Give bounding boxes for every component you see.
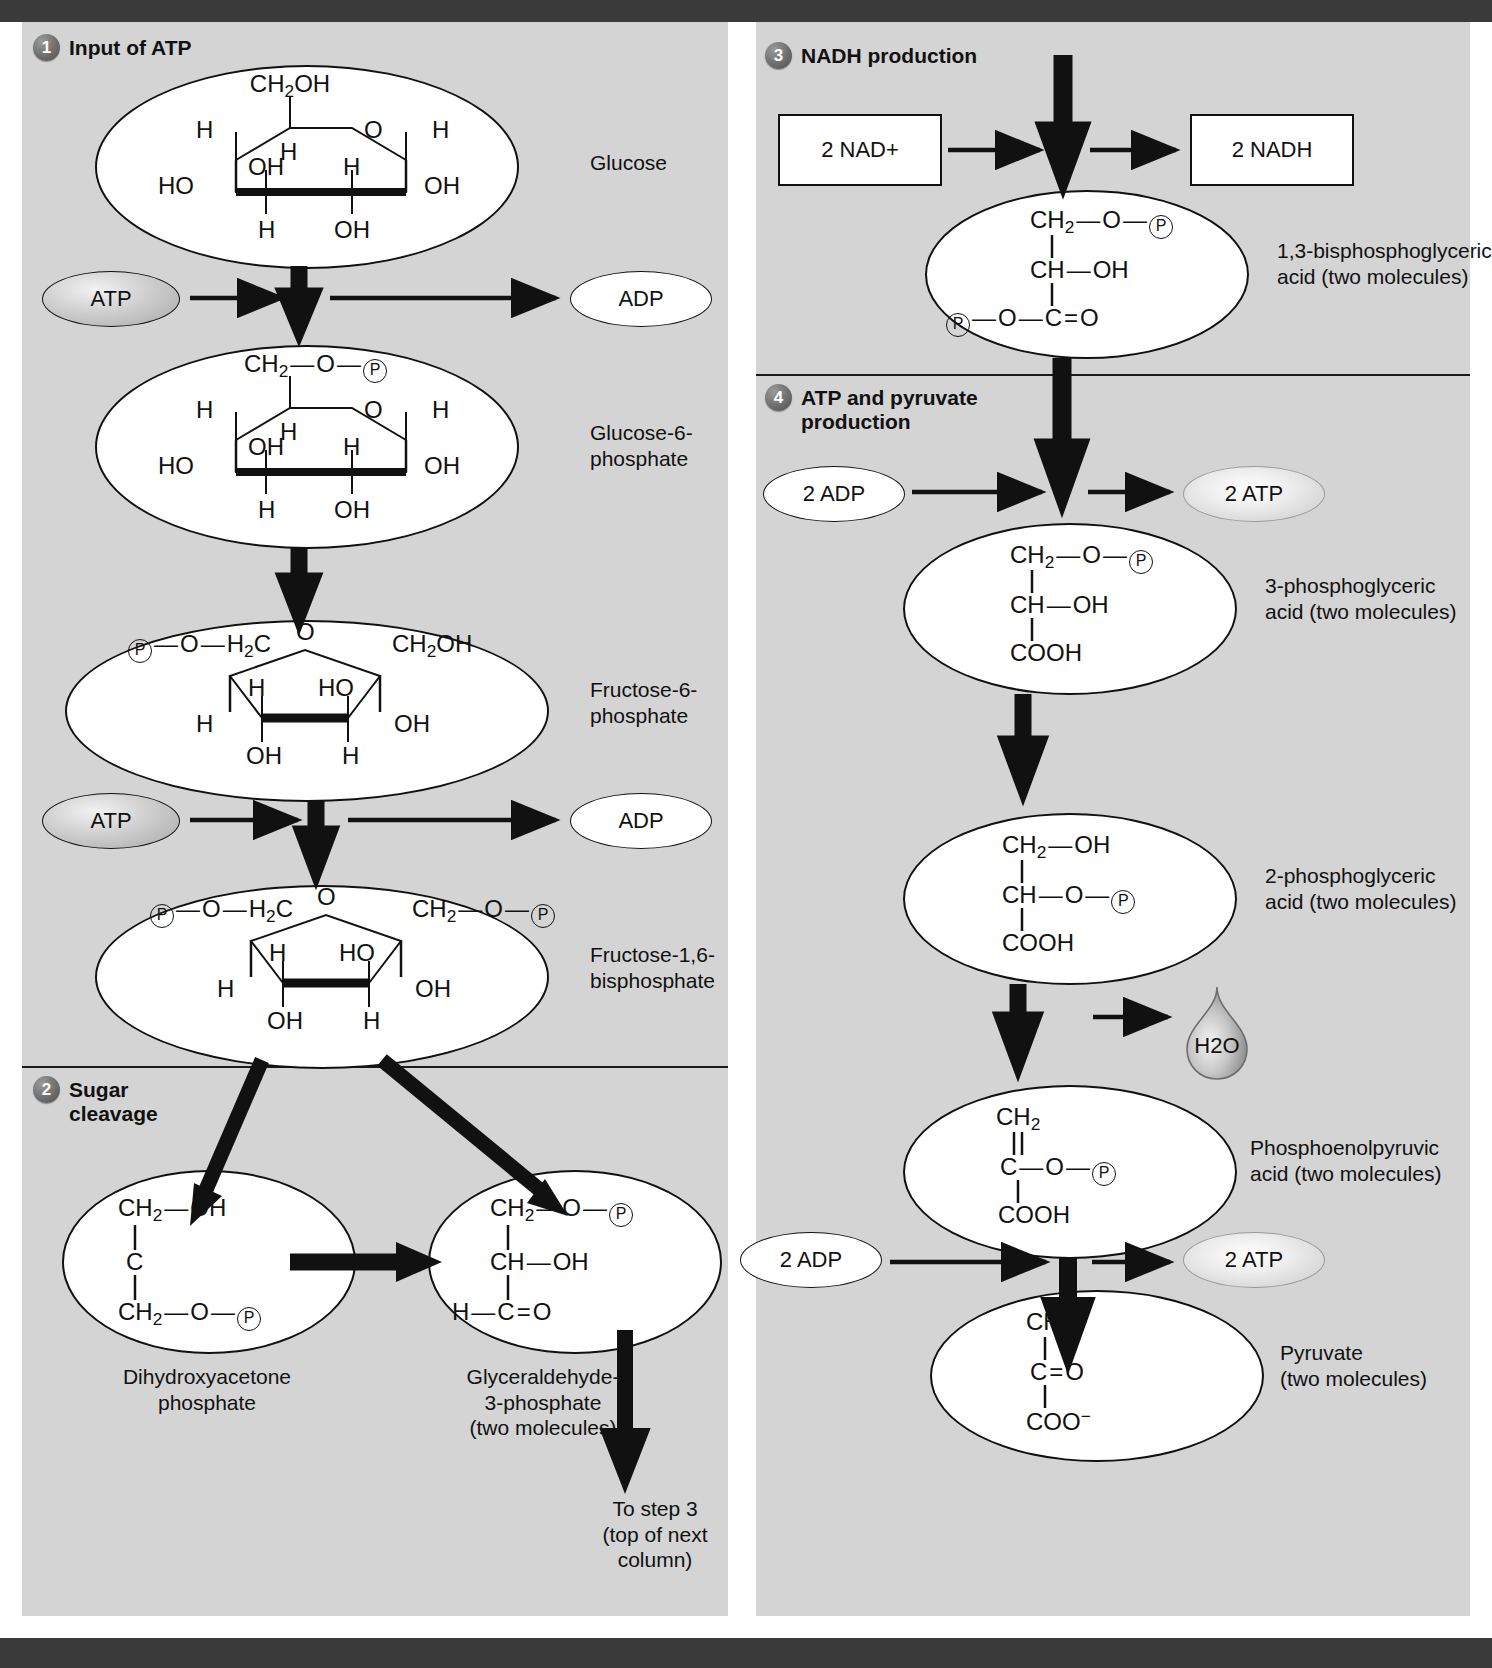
formula-glucose-h-right: H xyxy=(432,118,449,142)
adp-label: ADP xyxy=(618,808,663,834)
label-pyruvate: Pyruvate (two molecules) xyxy=(1280,1340,1427,1391)
atp-pill-2x-2: 2 ATP xyxy=(1183,1232,1325,1288)
formula-3pg-line2: CH — OH xyxy=(1010,593,1109,617)
formula-f6p-h-bottom: H xyxy=(342,744,359,768)
formula-g6p-h-c2: H xyxy=(343,435,360,459)
formula-pep-line2: C — O — P xyxy=(1000,1155,1116,1186)
adp-label: ADP xyxy=(618,286,663,312)
formula-3pg-line1: CH2 — O — P xyxy=(1010,543,1153,574)
figure-canvas: 1 Input of ATP 2 Sugar cleavage 3 NADH p… xyxy=(0,0,1492,1668)
formula-fbp-right-arm: CH2 — O — P xyxy=(412,897,555,928)
divider-step4 xyxy=(756,374,1470,376)
step-header-1: 1 Input of ATP xyxy=(33,34,191,61)
formula-glucose-h-c2: H xyxy=(343,155,360,179)
label-3-phosphoglyceric-acid: 3-phosphoglyceric acid (two molecules) xyxy=(1265,573,1456,624)
formula-2pg-line2: CH — O — P xyxy=(1002,883,1135,914)
formula-pep-line1: CH2 xyxy=(996,1105,1040,1133)
step-header-3: 3 NADH production xyxy=(765,42,977,69)
label-glyceraldehyde-3-phosphate: Glyceraldehyde- 3-phosphate (two molecul… xyxy=(398,1364,688,1441)
formula-glucose-oh-right: OH xyxy=(424,174,460,198)
formula-fbp-ho-inner: HO xyxy=(339,941,375,965)
formula-f6p-oh-bottom: OH xyxy=(246,744,282,768)
nad-plus-box: 2 NAD+ xyxy=(778,114,942,186)
formula-f6p-oh-right: OH xyxy=(394,712,430,736)
formula-bpg-line3: P — O — C = O xyxy=(946,306,1099,337)
formula-f6p-ho-inner: HO xyxy=(318,676,354,700)
label-1-3-bisphosphoglyceric-acid: 1,3-bisphosphoglyceric acid (two molecul… xyxy=(1277,238,1492,289)
formula-3pg-line3: COOH xyxy=(1010,641,1082,665)
atp-label: 2 ATP xyxy=(1225,1247,1283,1273)
adp-label: 2 ADP xyxy=(780,1247,842,1273)
formula-glucose-ho: HO xyxy=(158,174,194,198)
label-glucose-6-phosphate: Glucose-6- phosphate xyxy=(590,420,693,471)
adp-pill-2x-2: 2 ADP xyxy=(740,1232,882,1288)
step-header-2: 2 Sugar cleavage xyxy=(33,1076,158,1125)
formula-fbp-left-arm: P — O — H2C xyxy=(150,897,293,928)
atp-label: ATP xyxy=(90,808,131,834)
formula-glucose-h-bottom: H xyxy=(258,218,275,242)
formula-2pg-line3: COOH xyxy=(1002,931,1074,955)
label-dihydroxyacetone-phosphate: Dihydroxyacetone phosphate xyxy=(62,1364,352,1415)
formula-f6p-h-inner: H xyxy=(248,676,265,700)
water-label: H2O xyxy=(1175,1033,1259,1059)
formula-pep-line3: COOH xyxy=(998,1203,1070,1227)
formula-g6p-c6: CH2 — O — P xyxy=(244,352,387,383)
formula-dhap-line3: CH2 — O — P xyxy=(118,1300,261,1331)
step-number-badge: 2 xyxy=(33,1076,60,1103)
label-2-phosphoglyceric-acid: 2-phosphoglyceric acid (two molecules) xyxy=(1265,863,1456,914)
water-droplet: H2O xyxy=(1175,985,1259,1081)
formula-g6p-oh-right: OH xyxy=(424,454,460,478)
formula-fbp-h-inner: H xyxy=(269,941,286,965)
adp-pill-1: ADP xyxy=(570,271,712,327)
formula-glucose-oh-c2: OH xyxy=(248,155,284,179)
formula-g3p-line3: H — C = O xyxy=(452,1300,551,1324)
label-fructose-1-6-bisphosphate: Fructose-1,6- bisphosphate xyxy=(590,942,715,993)
molecule-ellipse-pyruvate xyxy=(930,1290,1264,1462)
formula-dhap-line1: CH2 — OH xyxy=(118,1196,226,1224)
formula-f6p-ring-o: O xyxy=(296,620,315,644)
step-title: Input of ATP xyxy=(69,34,191,60)
atp-pill-1: ATP xyxy=(42,271,180,327)
step-header-4: 4 ATP and pyruvate production xyxy=(765,384,978,433)
formula-glucose-c6: CH2OH xyxy=(250,72,330,100)
nadh-box: 2 NADH xyxy=(1190,114,1354,186)
formula-pyruvate-line2: C = O xyxy=(1030,1360,1084,1384)
formula-pyruvate-line1: CH3 xyxy=(1026,1310,1070,1338)
formula-g6p-h-left: H xyxy=(196,398,213,422)
formula-g3p-line2: CH — OH xyxy=(490,1250,589,1274)
formula-glucose-ring-o: O xyxy=(364,118,383,142)
formula-fbp-ring-o: O xyxy=(317,885,336,909)
step-number-badge: 1 xyxy=(33,34,60,61)
formula-f6p-h-left-low: H xyxy=(196,712,213,736)
label-fructose-6-phosphate: Fructose-6- phosphate xyxy=(590,677,697,728)
formula-g6p-ho: HO xyxy=(158,454,194,478)
formula-g6p-ring-o: O xyxy=(364,398,383,422)
formula-f6p-left-arm: P — O — H2C xyxy=(128,632,271,663)
step-title: Sugar cleavage xyxy=(69,1076,158,1125)
formula-f6p-right-arm: CH2OH xyxy=(392,632,472,660)
formula-fbp-h-bottom: H xyxy=(363,1009,380,1033)
adp-pill-2x-1: 2 ADP xyxy=(763,466,905,522)
nad-plus-label: 2 NAD+ xyxy=(821,137,899,163)
formula-glucose-h-left: H xyxy=(196,118,213,142)
formula-g3p-line1: CH2 — O — P xyxy=(490,1196,633,1227)
step-number-badge: 3 xyxy=(765,42,792,69)
atp-label: 2 ATP xyxy=(1225,481,1283,507)
formula-bpg-line1: CH2 — O — P xyxy=(1030,208,1173,239)
formula-g6p-oh-c2: OH xyxy=(248,435,284,459)
adp-pill-2: ADP xyxy=(570,793,712,849)
step-number-badge: 4 xyxy=(765,384,792,411)
formula-g6p-h-right: H xyxy=(432,398,449,422)
formula-dhap-line2: C xyxy=(126,1250,143,1274)
formula-fbp-oh-right: OH xyxy=(415,977,451,1001)
step-title: NADH production xyxy=(801,42,977,68)
label-phosphoenolpyruvic-acid: Phosphoenolpyruvic acid (two molecules) xyxy=(1250,1135,1441,1186)
nadh-label: 2 NADH xyxy=(1232,137,1313,163)
note-to-step-3: To step 3 (top of next column) xyxy=(560,1496,750,1573)
top-band xyxy=(0,0,1492,22)
atp-pill-2x-1: 2 ATP xyxy=(1183,466,1325,522)
bottom-band xyxy=(0,1638,1492,1668)
formula-bpg-line2: CH — OH xyxy=(1030,258,1129,282)
formula-fbp-h-left-low: H xyxy=(217,977,234,1001)
atp-label: ATP xyxy=(90,286,131,312)
